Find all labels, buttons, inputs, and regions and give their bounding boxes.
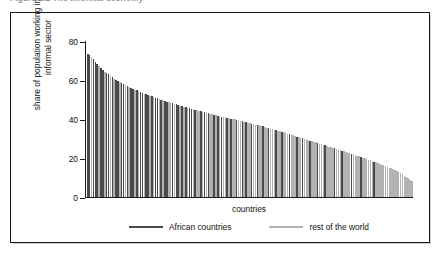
figure-caption-text: Figure 2.1 The informal economy <box>10 0 143 3</box>
legend-label: rest of the world <box>309 222 369 232</box>
x-axis-title: countries <box>85 204 413 214</box>
legend-item-rest-of-the-world: rest of the world <box>269 222 369 232</box>
y-tick-label-60: 60 <box>69 76 78 86</box>
y-tick-0 <box>80 198 85 199</box>
y-tick-label-0: 0 <box>73 193 78 203</box>
bar-series <box>87 41 413 197</box>
y-tick-label-20: 20 <box>69 154 78 164</box>
legend-label: African countries <box>169 222 231 232</box>
legend-item-african-countries: African countries <box>129 222 231 232</box>
bar <box>411 181 413 197</box>
y-tick-label-40: 40 <box>69 115 78 125</box>
y-tick-60 <box>80 81 85 82</box>
figure-root: Figure 2.1 The informal economy share of… <box>0 0 445 253</box>
legend-line-swatch <box>269 226 303 228</box>
plot-area: 020406080 countries <box>85 41 413 198</box>
y-tick-40 <box>80 120 85 121</box>
figure-frame: share of population working in the infor… <box>10 12 430 243</box>
x-axis-line <box>85 197 413 198</box>
y-tick-label-80: 80 <box>69 37 78 47</box>
figure-caption-clipped: Figure 2.1 The informal economy <box>10 0 340 9</box>
chart-legend: African countriesrest of the world <box>85 222 413 232</box>
y-tick-20 <box>80 159 85 160</box>
y-axis-title: share of population working in the infor… <box>32 0 53 123</box>
y-tick-80 <box>80 42 85 43</box>
legend-line-swatch <box>129 226 163 228</box>
